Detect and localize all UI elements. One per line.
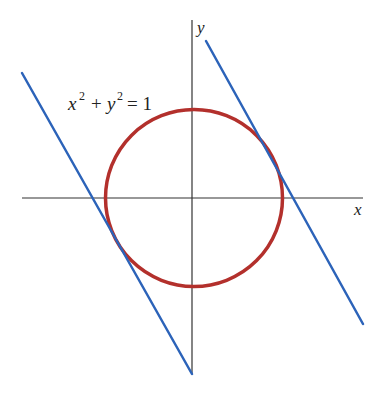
equation-x-exponent: 2 [79,89,85,103]
circle-equation: x 2 + y 2 = 1 [67,89,152,114]
tangent-lines-diagram: y x x 2 + y 2 = 1 [0,0,383,398]
equation-x: x [67,93,77,114]
equation-plus: + [91,93,102,114]
tangent-line-left [22,73,192,374]
equation-y: y [105,93,116,114]
equation-y-exponent: 2 [117,89,123,103]
y-axis-label: y [195,18,205,37]
x-axis-label: x [353,200,362,219]
tangent-line-right [206,41,363,324]
equation-equals-one: = 1 [127,93,152,114]
